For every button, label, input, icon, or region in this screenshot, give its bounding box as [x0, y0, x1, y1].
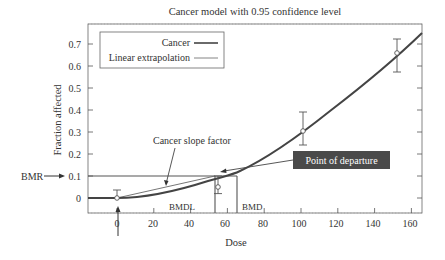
arrowhead-icon [59, 174, 65, 179]
x-tick-label: 140 [366, 218, 381, 229]
slope-factor-arrow [166, 148, 175, 184]
y-tick-label: 0.2 [69, 149, 82, 160]
linear-extrapolation-line [117, 176, 215, 198]
x-axis: 0 20 40 60 80 100 120 140 160 Dose [115, 208, 418, 248]
y-tick-label: 0.1 [69, 171, 82, 182]
x-tick-label: 160 [403, 218, 418, 229]
x-tick-label: 100 [292, 218, 307, 229]
y-tick-label: 0 [76, 193, 81, 204]
x-tick-label: 0 [115, 218, 120, 229]
bmr-label: BMR [21, 171, 44, 182]
pod-label: Point of departure [305, 155, 378, 166]
y-tick-label: 0.5 [69, 83, 82, 94]
slope-factor-label: Cancer slope factor [153, 135, 231, 146]
x-axis-label: Dose [225, 237, 247, 248]
x-tick-label: 40 [184, 218, 194, 229]
y-axis-label: Fraction affected [52, 84, 63, 156]
chart: Cancer model with 0.95 confidence level … [0, 0, 445, 260]
arrowhead-icon [116, 206, 121, 212]
legend: Cancer Linear extrapolation [100, 32, 224, 68]
x-tick-label: 120 [329, 218, 344, 229]
x-tick-label: 60 [220, 218, 230, 229]
arrowhead-icon [164, 180, 169, 186]
bmdl-label: BMDL [169, 202, 195, 212]
chart-title: Cancer model with 0.95 confidence level [169, 6, 342, 17]
y-tick-label: 0.3 [69, 127, 82, 138]
x-tick-label: 20 [148, 218, 158, 229]
legend-linear-label: Linear extrapolation [109, 52, 190, 63]
x-tick-label: 80 [258, 218, 268, 229]
arrowhead-icon [220, 169, 227, 174]
y-tick-label: 0.6 [69, 61, 82, 72]
y-tick-label: 0.4 [69, 105, 82, 116]
y-tick-label: 0.7 [69, 39, 82, 50]
bmd-label: BMD [242, 202, 263, 212]
legend-cancer-label: Cancer [162, 37, 191, 48]
